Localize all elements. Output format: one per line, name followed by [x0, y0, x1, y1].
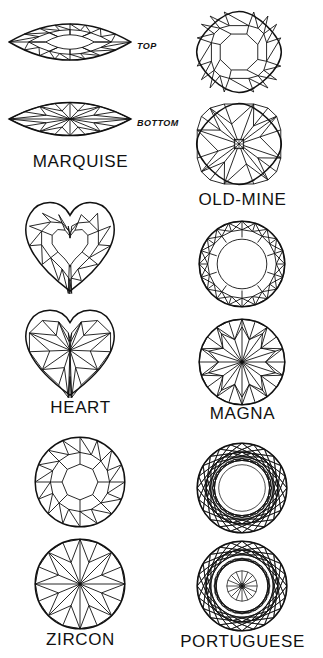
view-label-marquise-top: TOP [137, 41, 157, 51]
right-column: OLD-MINEMAGNAPORTUGUESE [162, 0, 323, 658]
gem-figure-marquise-top [6, 6, 134, 78]
gem-figure-old-mine-top [193, 8, 285, 96]
gem-figure-magna-bottom [198, 318, 286, 406]
gem-figure-zircon-top [34, 436, 126, 528]
gem-figure-zircon-bottom [34, 538, 126, 630]
gem-figure-heart-bottom [22, 304, 118, 398]
gem-figure-heart-top [22, 196, 118, 294]
gem-figure-magna-top [198, 220, 286, 308]
left-column: TOPBOTTOMMARQUISEHEARTZIRCON [0, 0, 161, 658]
gem-figure-old-mine-bottom [193, 100, 285, 188]
gem-cut-chart: TOPBOTTOMMARQUISEHEARTZIRCON OLD-MINEMAG… [0, 0, 323, 658]
gem-label-portuguese: PORTUGUESE [162, 632, 323, 652]
gem-label-old-mine: OLD-MINE [162, 190, 323, 210]
gem-label-magna: MAGNA [162, 404, 323, 424]
gem-label-zircon: ZIRCON [0, 630, 161, 650]
gem-figure-portuguese-bottom [196, 540, 288, 632]
gem-label-heart: HEART [0, 398, 161, 418]
gem-label-marquise: MARQUISE [0, 152, 161, 172]
gem-figure-portuguese-top [196, 442, 288, 534]
gem-figure-marquise-bottom [6, 86, 134, 152]
